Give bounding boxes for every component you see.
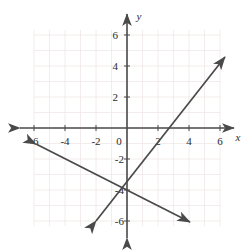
y-tick-label: 4 — [113, 60, 119, 72]
x-tick-label: -4 — [60, 135, 70, 147]
graph-figure: -6 -4 -2 0 2 4 6 6 4 2 -2 -4 -6 x y — [0, 0, 250, 251]
coordinate-plane: -6 -4 -2 0 2 4 6 6 4 2 -2 -4 -6 x y — [0, 0, 250, 251]
x-tick-label: -2 — [91, 135, 100, 147]
y-tick-label: -2 — [115, 153, 124, 165]
y-axis-label: y — [136, 10, 142, 22]
axes — [20, 14, 234, 238]
data-line-2 — [36, 144, 190, 222]
x-tick-label: 4 — [186, 135, 192, 147]
x-tick-label: 6 — [217, 135, 223, 147]
y-tick-label: 6 — [113, 29, 119, 41]
y-tick-label: 2 — [113, 91, 119, 103]
y-tick-label: -6 — [115, 215, 125, 227]
x-axis-label: x — [235, 131, 241, 143]
x-tick-label-origin: 0 — [116, 135, 122, 147]
